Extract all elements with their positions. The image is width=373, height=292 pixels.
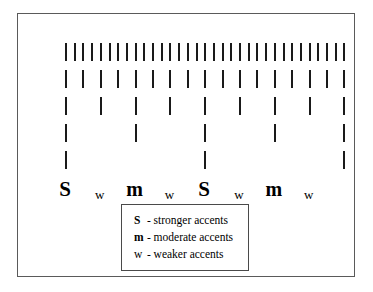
grid-tick (326, 43, 328, 61)
grid-tick (152, 43, 154, 61)
grid-tick (178, 43, 180, 61)
grid-tick (100, 43, 102, 61)
legend-description: moderate accents (154, 231, 234, 243)
legend-separator: - (144, 231, 154, 243)
grid-tick (187, 43, 189, 61)
legend-description: stronger accents (154, 214, 228, 226)
accent-label-stronger-4: S (198, 177, 210, 201)
accent-label-weaker-7: w (304, 183, 313, 207)
grid-tick (100, 97, 102, 115)
grid-tick (91, 43, 93, 61)
grid-tick (82, 70, 84, 88)
grid-tick (222, 70, 224, 88)
grid-tick (82, 43, 84, 61)
grid-tick (230, 43, 232, 61)
grid-tick (239, 43, 241, 61)
figure-frame: SwmwSwmw S - stronger accentsm - moderat… (17, 13, 355, 277)
grid-tick (274, 70, 276, 88)
grid-row-level-5 (18, 151, 356, 171)
grid-tick (65, 70, 67, 88)
legend-key: S (134, 212, 144, 229)
grid-tick (213, 43, 215, 61)
grid-tick (65, 124, 67, 142)
grid-tick (204, 124, 206, 142)
grid-tick (248, 43, 250, 61)
legend-separator: - (144, 248, 154, 260)
grid-tick (239, 70, 241, 88)
grid-tick (169, 70, 171, 88)
grid-row-level-2 (18, 70, 356, 90)
accent-label-stronger-0: S (59, 177, 71, 201)
accent-label-row: SwmwSwmw (18, 177, 356, 203)
grid-tick (343, 151, 345, 169)
grid-tick (291, 70, 293, 88)
grid-tick (135, 70, 137, 88)
legend-box: S - stronger accentsm - moderate accents… (121, 204, 249, 271)
grid-tick (204, 97, 206, 115)
grid-tick (343, 43, 345, 61)
grid-tick (274, 43, 276, 61)
grid-tick (222, 43, 224, 61)
legend-key: w (134, 246, 144, 263)
grid-tick (309, 70, 311, 88)
grid-tick (256, 70, 258, 88)
grid-tick (109, 43, 111, 61)
grid-tick (65, 151, 67, 169)
grid-tick (343, 70, 345, 88)
grid-tick (309, 43, 311, 61)
grid-tick (126, 43, 128, 61)
grid-tick (343, 97, 345, 115)
grid-row-level-4 (18, 124, 356, 144)
legend-description: weaker accents (154, 248, 224, 260)
grid-tick (274, 97, 276, 115)
grid-tick (196, 43, 198, 61)
grid-tick (300, 43, 302, 61)
accent-label-moderate-2: m (126, 177, 143, 201)
legend-entry-S: S - stronger accents (134, 212, 248, 229)
legend-separator: - (144, 214, 154, 226)
grid-tick (256, 43, 258, 61)
grid-tick (117, 70, 119, 88)
grid-tick (135, 124, 137, 142)
grid-tick (74, 43, 76, 61)
grid-tick (187, 70, 189, 88)
grid-tick (291, 43, 293, 61)
grid-tick (283, 43, 285, 61)
grid-tick (100, 70, 102, 88)
grid-tick (326, 70, 328, 88)
grid-tick (309, 97, 311, 115)
legend-entry-w: w - weaker accents (134, 246, 248, 263)
grid-tick (274, 124, 276, 142)
grid-tick (204, 151, 206, 169)
grid-row-level-1 (18, 43, 356, 63)
legend-key: m (134, 229, 144, 246)
grid-tick (343, 124, 345, 142)
grid-tick (65, 43, 67, 61)
grid-tick (204, 70, 206, 88)
accent-label-weaker-1: w (95, 183, 104, 207)
grid-tick (135, 97, 137, 115)
legend-entry-m: m - moderate accents (134, 229, 248, 246)
grid-row-level-3 (18, 97, 356, 117)
grid-tick (265, 43, 267, 61)
grid-tick (161, 43, 163, 61)
grid-tick (317, 43, 319, 61)
grid-tick (65, 97, 67, 115)
grid-tick (335, 43, 337, 61)
grid-tick (239, 97, 241, 115)
grid-tick (143, 43, 145, 61)
accent-label-moderate-6: m (265, 177, 282, 201)
grid-tick (135, 43, 137, 61)
grid-tick (169, 97, 171, 115)
grid-tick (204, 43, 206, 61)
grid-tick (152, 70, 154, 88)
grid-tick (117, 43, 119, 61)
grid-tick (169, 43, 171, 61)
